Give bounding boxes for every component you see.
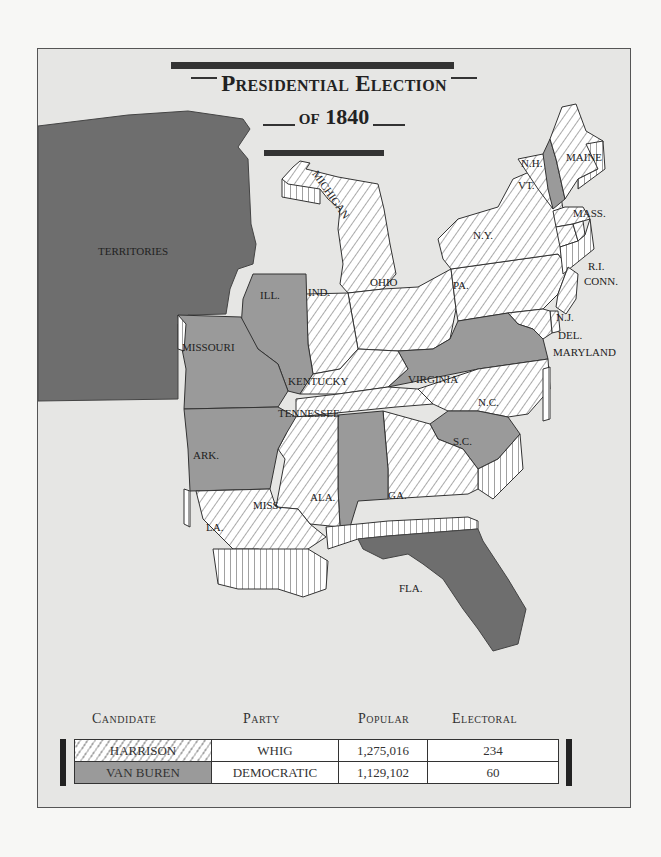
election-map: TERRITORIES MICHIGAN MAINE N.H. VT. N.Y.… (38, 49, 631, 709)
cell-electoral: 234 (428, 740, 559, 762)
cell-candidate: HARRISON (75, 740, 212, 762)
label-ny: N.Y. (473, 229, 493, 241)
cell-popular: 1,129,102 (339, 762, 428, 784)
label-pa: PA. (453, 279, 469, 291)
table-row: VAN BUREN DEMOCRATIC 1,129,102 60 (75, 762, 559, 784)
label-tennessee: TENNESSEE (278, 407, 340, 419)
cell-electoral: 60 (428, 762, 559, 784)
label-mass: MASS. (573, 207, 606, 219)
cell-candidate: VAN BUREN (75, 762, 212, 784)
label-ark: ARK. (193, 449, 219, 461)
label-maryland: MARYLAND (553, 346, 616, 358)
label-ohio: OHIO (370, 276, 398, 288)
label-ga: GA. (388, 489, 407, 501)
state-louisiana-extrusion (213, 549, 328, 597)
label-la: LA. (206, 521, 224, 533)
label-vt: VT. (518, 179, 535, 191)
label-maine: MAINE (566, 151, 602, 163)
region-florida (358, 529, 526, 651)
label-sc: S.C. (453, 435, 472, 447)
table-right-bar (566, 739, 572, 786)
state-michigan (282, 161, 396, 293)
state-nc-extrusion (543, 367, 550, 421)
label-fla: FLA. (399, 582, 423, 594)
cell-party: WHIG (212, 740, 339, 762)
label-ill: ILL. (260, 289, 280, 301)
cell-popular: 1,275,016 (339, 740, 428, 762)
label-del: DEL. (558, 329, 582, 341)
label-territories: TERRITORIES (98, 245, 168, 257)
header-electoral: Electoral (452, 711, 517, 727)
cell-party: DEMOCRATIC (212, 762, 339, 784)
label-ind: IND. (308, 286, 331, 298)
state-alabama (338, 411, 388, 527)
results-table-header: Candidate Party Popular Electoral (38, 711, 631, 731)
label-ala: ALA. (310, 491, 336, 503)
map-frame: Presidential Election of 1840 (37, 48, 631, 808)
header-candidate: Candidate (92, 711, 156, 727)
table-row: HARRISON WHIG 1,275,016 234 (75, 740, 559, 762)
label-conn: CONN. (584, 275, 618, 287)
label-virginia: VIRGINIA (408, 373, 458, 385)
label-ri: R.I. (588, 260, 605, 272)
label-nc: N.C. (478, 396, 499, 408)
header-party: Party (243, 711, 280, 727)
label-missouri: MISSOURI (182, 341, 235, 353)
state-arkansas-extrusion (184, 489, 190, 527)
header-popular: Popular (358, 711, 409, 727)
table-left-bar (60, 739, 66, 786)
label-kentucky: KENTUCKY (288, 375, 349, 387)
label-miss: MISS. (253, 499, 282, 511)
label-nh: N.H. (521, 157, 543, 169)
label-nj: N.J. (556, 311, 574, 323)
results-table: HARRISON WHIG 1,275,016 234 VAN BUREN DE… (74, 739, 559, 784)
